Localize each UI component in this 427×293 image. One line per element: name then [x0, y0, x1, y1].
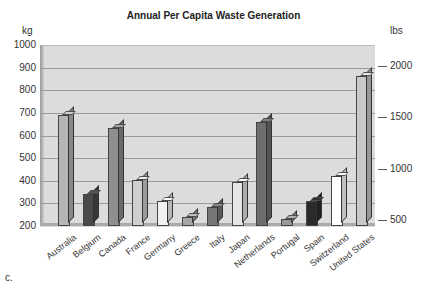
y2-tick-mark — [378, 66, 387, 67]
bar-greece — [182, 217, 194, 226]
gridline — [40, 68, 375, 69]
y2-tick-mark — [378, 169, 387, 170]
bar-belgium — [83, 194, 95, 226]
y-axis-unit-left: kg — [22, 25, 33, 36]
x-tick-label: Australia — [44, 232, 78, 261]
bar-switzerland — [331, 176, 343, 226]
figure-annotation: c. — [5, 272, 13, 283]
bar-side — [68, 106, 74, 223]
bar-netherlands — [256, 122, 268, 226]
bar-italy — [207, 207, 219, 226]
y2-tick-label: 2000 — [390, 60, 412, 71]
y-tick-label: 200 — [0, 220, 36, 231]
y2-tick-mark — [378, 220, 387, 221]
bar-side — [118, 119, 124, 223]
gridline — [40, 90, 375, 91]
chart-title: Annual Per Capita Waste Generation — [0, 10, 427, 21]
x-tick-label: Italy — [208, 232, 227, 250]
bar-canada — [108, 128, 120, 226]
y2-tick-label: 1000 — [390, 163, 412, 174]
gridline — [40, 113, 375, 114]
bar-spain — [306, 201, 318, 226]
y2-tick-label: 500 — [390, 214, 407, 225]
x-tick-label: Greece — [173, 232, 202, 258]
y-tick-label: 800 — [0, 84, 36, 95]
y-tick-label: 400 — [0, 175, 36, 186]
y-tick-label: 700 — [0, 107, 36, 118]
bar-united-states — [356, 76, 368, 226]
y-tick-label: 900 — [0, 62, 36, 73]
bar-side — [366, 67, 372, 223]
x-tick-label: Canada — [97, 232, 128, 259]
y-tick-label: 1000 — [0, 39, 36, 50]
bar-portugal — [281, 219, 293, 226]
bar-side — [266, 113, 272, 223]
y2-tick-label: 1500 — [390, 111, 412, 122]
y-tick-label: 300 — [0, 197, 36, 208]
bar-japan — [232, 182, 244, 226]
y-axis-unit-right: lbs — [390, 25, 403, 36]
y-tick-label: 600 — [0, 130, 36, 141]
y2-tick-mark — [378, 117, 387, 118]
gridline — [40, 158, 375, 159]
gridline — [40, 181, 375, 182]
y-tick-label: 500 — [0, 152, 36, 163]
bar-germany — [157, 201, 169, 226]
gridline — [40, 136, 375, 137]
bar-france — [132, 180, 144, 226]
bar-australia — [58, 115, 70, 226]
